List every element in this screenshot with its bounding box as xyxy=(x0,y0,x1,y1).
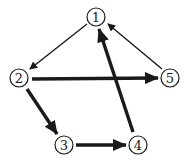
edge-2-to-3 xyxy=(27,89,57,134)
node-2-label: 2 xyxy=(15,71,23,86)
node-4-label: 4 xyxy=(134,138,142,153)
edge-4-to-1 xyxy=(99,29,133,132)
edge-5-to-1 xyxy=(108,24,162,69)
node-3-label: 3 xyxy=(60,138,68,153)
node-5-label: 5 xyxy=(166,71,174,86)
node-3: 3 xyxy=(55,136,73,154)
graph-diagram: 1 2 3 4 5 xyxy=(0,0,188,162)
node-4: 4 xyxy=(129,136,147,154)
node-2: 2 xyxy=(10,69,28,87)
node-1-label: 1 xyxy=(92,10,100,25)
edge-2-to-5 xyxy=(32,78,158,79)
edge-1-to-2 xyxy=(30,24,87,69)
node-1: 1 xyxy=(87,8,105,26)
node-5: 5 xyxy=(161,69,179,87)
